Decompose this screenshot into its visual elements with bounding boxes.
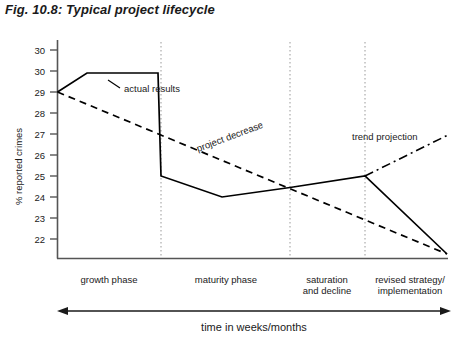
- y-tick-label: 27: [34, 129, 45, 140]
- chart-svg: 30 30 29 28 27 26 25 24 23 22 % reported…: [0, 0, 456, 341]
- phase-dividers: [161, 42, 365, 258]
- y-tick-marks: [50, 50, 58, 239]
- phase-label-saturation-line2: and decline: [303, 285, 352, 296]
- series-project-decrease: [58, 92, 448, 254]
- y-tick-label: 30: [34, 66, 45, 77]
- y-tick-label: 30: [34, 45, 45, 56]
- figure-title: Fig. 10.8: Typical project lifecycle: [5, 2, 215, 17]
- y-tick-label: 22: [34, 234, 45, 245]
- y-tick-label: 23: [34, 213, 45, 224]
- y-tick-label: 25: [34, 171, 45, 182]
- phase-label-maturity: maturity phase: [195, 274, 257, 285]
- actual-results-leader: [108, 80, 120, 88]
- y-axis-title: % reported crimes: [13, 128, 24, 205]
- y-tick-label: 24: [34, 192, 45, 203]
- y-tick-label: 28: [34, 108, 45, 119]
- phase-label-growth: growth phase: [80, 274, 137, 285]
- annotation-trend-projection: trend projection: [352, 131, 417, 142]
- y-tick-labels: 30 30 29 28 27 26 25 24 23 22: [34, 45, 45, 245]
- y-tick-label: 29: [34, 87, 45, 98]
- phase-label-revised-strategy-line1: revised strategy/: [375, 274, 445, 285]
- annotation-project-decrease: project decrease: [195, 119, 265, 154]
- phase-label-saturation-line1: saturation: [306, 274, 348, 285]
- phase-label-revised-strategy-line2: implementation: [378, 285, 442, 296]
- time-axis-arrow: [57, 307, 451, 315]
- y-tick-label: 26: [34, 150, 45, 161]
- x-axis-title: time in weeks/months: [201, 321, 307, 333]
- figure-chart: Fig. 10.8: Typical project lifecycle 30 …: [0, 0, 456, 341]
- annotation-actual-results: actual results: [124, 83, 180, 94]
